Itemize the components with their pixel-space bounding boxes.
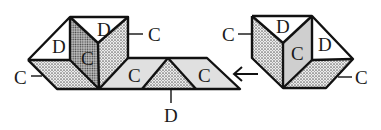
right-label-right-triangle: D xyxy=(318,34,332,55)
label-left-triangle: D xyxy=(52,36,66,57)
label-center-face: C xyxy=(81,48,94,69)
right-label-right-leader: C xyxy=(355,67,368,88)
right-folded-figure: C D C D C xyxy=(222,16,368,88)
label-strip-left: C xyxy=(128,65,141,86)
label-right-leader: C xyxy=(148,24,161,45)
label-left-leader: C xyxy=(14,67,27,88)
right-label-left-leader: C xyxy=(222,24,235,45)
folding-diagram: D C D C C C C D C xyxy=(0,0,381,130)
left-net-figure: D C D C C C C D xyxy=(14,17,240,126)
right-label-center-face: C xyxy=(291,43,304,64)
arrow-left-icon xyxy=(234,67,258,81)
label-strip-right: C xyxy=(198,65,211,86)
label-strip-bottom: D xyxy=(164,105,178,126)
label-top-triangle: D xyxy=(97,19,111,40)
right-label-top-triangle: D xyxy=(276,16,290,37)
